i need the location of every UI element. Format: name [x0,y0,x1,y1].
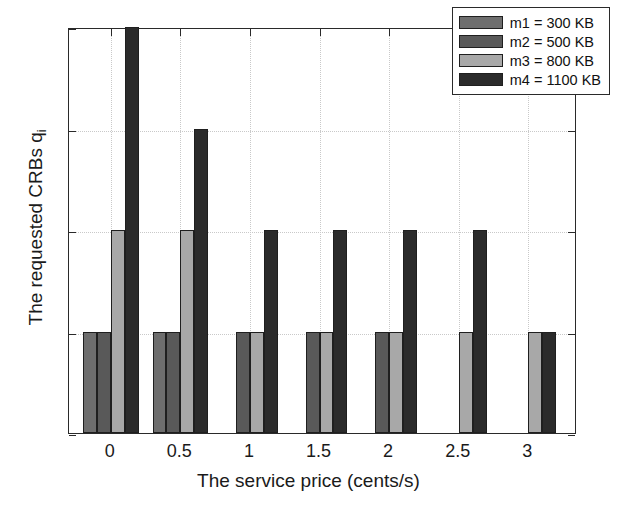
legend-item: m1 = 300 KB [459,13,601,32]
legend-swatch [459,16,503,29]
bar [180,230,194,433]
bar [473,230,487,433]
legend-label: m1 = 300 KB [510,15,594,31]
x-tick-label: 0 [105,441,115,462]
y-tick-mark-right [568,334,575,335]
x-tick-mark-top [320,29,321,36]
y-tick-mark-right [568,131,575,132]
figure: 01234 00.511.522.53 The service price (c… [0,0,617,511]
bar [375,332,389,434]
x-tick-mark-top [250,29,251,36]
bar [264,230,278,433]
x-tick-label: 1 [244,441,254,462]
x-tick-label: 2.5 [445,441,470,462]
y-axis-label-subscript: i [34,129,49,132]
x-tick-label: 0.5 [167,441,192,462]
bar [97,332,111,434]
bar [389,332,403,434]
legend-label: m3 = 800 KB [510,53,594,69]
bar [459,332,473,434]
y-axis-label: The requested CRBs qi [25,27,50,427]
y-tick-mark [69,232,76,233]
bar [333,230,347,433]
y-tick-mark [69,131,76,132]
bar [153,332,167,434]
x-axis-label: The service price (cents/s) [0,470,617,492]
legend-swatch [459,54,503,67]
bar [194,129,208,434]
bar [528,332,542,434]
legend-swatch [459,73,503,86]
bar [166,332,180,434]
bar [236,332,250,434]
bar [542,332,556,434]
y-tick-mark [69,29,76,30]
legend-label: m4 = 1100 KB [510,72,601,88]
y-tick-mark [69,435,76,436]
legend: m1 = 300 KBm2 = 500 KBm3 = 800 KBm4 = 11… [452,7,610,95]
x-tick-mark-top [389,29,390,36]
x-tick-mark-top [180,29,181,36]
bar [320,332,334,434]
bar [83,332,97,434]
legend-label: m2 = 500 KB [510,34,594,50]
y-tick-mark-right [568,435,575,436]
bar [125,27,139,433]
bar [250,332,264,434]
y-tick-mark-right [568,232,575,233]
y-tick-mark [69,334,76,335]
x-tick-mark-top [111,29,112,36]
legend-swatch [459,35,503,48]
legend-item: m4 = 1100 KB [459,70,601,89]
x-tick-label: 2 [383,441,393,462]
x-tick-label: 1.5 [306,441,331,462]
x-tick-label: 3 [522,441,532,462]
gridline-horizontal [69,232,575,233]
bar [306,332,320,434]
bar [111,230,125,433]
legend-item: m2 = 500 KB [459,32,601,51]
gridline-horizontal [69,131,575,132]
bar [403,230,417,433]
legend-item: m3 = 800 KB [459,51,601,70]
